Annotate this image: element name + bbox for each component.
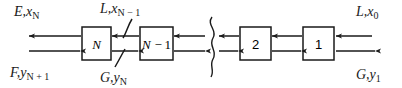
label-F-yN-plus-1: F,yN + 1 <box>9 65 49 82</box>
label-L-x0: L,x0 <box>355 4 379 21</box>
stage-box-1-label: 1 <box>315 37 322 52</box>
leader-line-top-mid <box>123 19 132 38</box>
label-G-yN: G,yN <box>100 70 127 87</box>
stage-box-N-label: N <box>91 37 102 52</box>
stage-box-N-minus-1-label: N −1 <box>141 37 171 52</box>
break-squiggle-icon <box>210 17 214 77</box>
label-L-xN-minus-1: L,xN − 1 <box>99 1 140 18</box>
diagram-canvas: N N −1 2 1 E,xN F,yN + 1 L,xN − 1 G,yN L… <box>0 0 402 88</box>
label-G-y1: G,y1 <box>356 67 381 84</box>
stage-box-2-label: 2 <box>252 37 259 52</box>
block-diagram-svg: N N −1 2 1 E,xN F,yN + 1 L,xN − 1 G,yN L… <box>0 0 402 88</box>
label-E-xN: E,xN <box>13 4 40 21</box>
